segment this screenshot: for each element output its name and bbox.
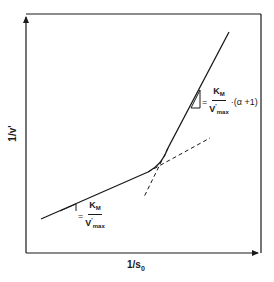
slope-low-annotation: = KM V'max (78, 200, 105, 232)
slope-high-denominator: V'max (209, 101, 228, 118)
diagram-canvas (0, 0, 274, 282)
slope-low-denominator: V'max (85, 215, 104, 232)
slope-high-fraction: KM V'max (209, 86, 228, 118)
slope-low-numerator: KM (88, 200, 102, 215)
x-axis-label-main: 1/s (127, 259, 141, 270)
slope-triangle-high (191, 90, 200, 108)
slope-low-fraction: KM V'max (85, 200, 104, 232)
plot-frame (26, 14, 261, 253)
y-axis-label: 1/v' (7, 125, 18, 141)
slope-triangle-low (60, 204, 76, 211)
slope-high-factor: ·(α +1) (231, 97, 258, 107)
slope-low-equals: = (78, 211, 83, 221)
slope-high-annotation: = KM V'max ·(α +1) (202, 86, 258, 118)
dashed-low-extension (148, 138, 210, 172)
x-axis-label: 1/s0 (127, 260, 145, 272)
reciprocal-curve (41, 32, 229, 219)
slope-high-equals: = (202, 97, 207, 107)
slope-high-numerator: KM (212, 86, 226, 101)
x-axis-label-sub: 0 (141, 265, 145, 272)
